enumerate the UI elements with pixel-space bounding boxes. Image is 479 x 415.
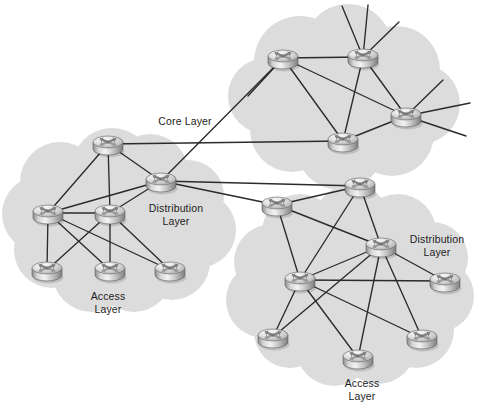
label-line: Layer <box>348 390 375 402</box>
router-right-access-1 <box>258 329 290 351</box>
router-left-distribution-2 <box>146 173 178 195</box>
network-topology-canvas: Core LayerDistributionLayerAccessLayerDi… <box>0 0 479 415</box>
router-right-distribution-5 <box>430 273 462 295</box>
router-left-access-3 <box>155 262 187 284</box>
router-left-distribution-4 <box>95 205 127 227</box>
router-left-access-1 <box>32 262 64 284</box>
router-left-distribution-1 <box>93 136 125 158</box>
router-right-access-3 <box>407 330 439 352</box>
label-line: Core Layer <box>158 115 212 127</box>
router-right-distribution-3 <box>366 238 398 260</box>
label-line: Layer <box>94 303 121 315</box>
label-line: Access <box>91 290 126 302</box>
router-left-access-2 <box>95 262 127 284</box>
label-line: Layer <box>162 215 189 227</box>
router-right-distribution-4 <box>285 272 317 294</box>
router-core-2 <box>348 49 380 71</box>
label-line: Distribution <box>410 233 464 245</box>
router-right-distribution-2 <box>345 178 377 200</box>
core-layer-label: Core Layer <box>158 115 212 127</box>
label-line: Layer <box>423 246 450 258</box>
access-right-label: AccessLayer <box>345 377 380 402</box>
network-diagram: Core LayerDistributionLayerAccessLayerDi… <box>0 0 479 415</box>
access-left-label: AccessLayer <box>91 290 126 315</box>
router-core-1 <box>268 50 300 72</box>
router-right-access-2 <box>343 350 375 372</box>
label-line: Access <box>345 377 380 389</box>
router-right-distribution-1 <box>262 197 294 219</box>
router-core-4 <box>328 133 360 155</box>
router-left-distribution-3 <box>33 205 65 227</box>
router-core-3 <box>391 108 423 130</box>
label-line: Distribution <box>149 202 203 214</box>
